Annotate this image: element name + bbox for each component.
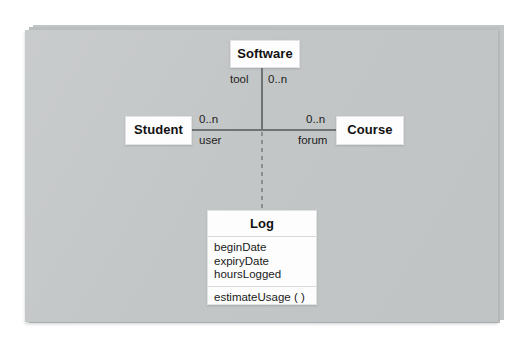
class-attribute: hoursLogged	[214, 268, 316, 282]
class-name-student: Student	[126, 117, 191, 143]
class-attribute: expiryDate	[214, 255, 316, 269]
class-attributes-compartment-log: beginDate expiryDate hoursLogged	[208, 237, 316, 287]
dependency-line-log	[261, 132, 263, 210]
class-box-course[interactable]: Course	[336, 116, 404, 145]
association-role-label-tool: tool	[230, 73, 249, 86]
class-name-course: Course	[337, 117, 403, 143]
class-box-log[interactable]: Log beginDate expiryDate hoursLogged est…	[207, 210, 317, 305]
association-line-software	[261, 67, 263, 130]
class-name-log: Log	[250, 216, 274, 231]
class-name-software: Software	[231, 41, 299, 67]
association-line-student-course	[192, 129, 337, 131]
class-title-compartment-log: Log	[208, 211, 316, 237]
association-multiplicity-label-software: 0..n	[268, 73, 287, 86]
class-attribute: beginDate	[214, 241, 316, 255]
class-operation: estimateUsage ( )	[214, 291, 316, 305]
association-multiplicity-label-student: 0..n	[199, 113, 218, 126]
class-box-student[interactable]: Student	[125, 116, 192, 145]
uml-class-diagram: Software Student Course Log beginDate ex…	[0, 0, 527, 341]
association-role-label-user: user	[199, 134, 221, 147]
class-box-software[interactable]: Software	[230, 40, 300, 68]
class-operations-compartment-log: estimateUsage ( )	[208, 287, 316, 308]
association-multiplicity-label-course: 0..n	[306, 113, 325, 126]
association-role-label-forum: forum	[298, 134, 327, 147]
